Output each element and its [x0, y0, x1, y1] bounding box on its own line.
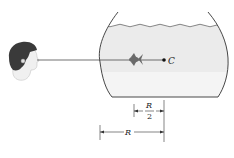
ear — [21, 59, 25, 63]
half-radius-denominator: 2 — [147, 112, 152, 121]
fishbowl-diagram: C R 2 R — [0, 0, 234, 158]
water — [95, 24, 234, 100]
center-label: C — [168, 56, 175, 66]
half-radius-numerator: R — [145, 101, 152, 110]
radius-label: R — [124, 128, 131, 137]
center-point — [162, 58, 166, 62]
dimension-radius — [100, 125, 164, 140]
observer-head — [9, 42, 39, 80]
